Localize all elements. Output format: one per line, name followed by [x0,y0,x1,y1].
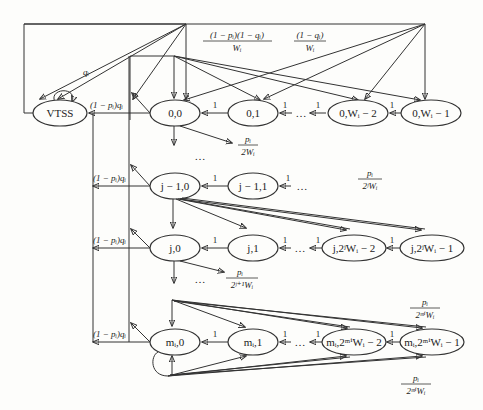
svg-text:2ᵐⁱWᵢ: 2ᵐⁱWᵢ [416,310,436,320]
node-m-w-1: mᵢ,2ᵐⁱWᵢ − 1 [404,336,460,348]
svg-text:1: 1 [390,100,395,110]
stage-m-bottom-edges: pᵢ 2ᵐⁱWᵢ [153,352,431,396]
svg-text:pᵢ: pᵢ [236,267,244,277]
svg-text:Wᵢ: Wᵢ [306,43,315,53]
svg-text:1: 1 [213,100,218,110]
svg-text:1: 1 [316,235,321,245]
svg-text:2ʲWᵢ: 2ʲWᵢ [363,181,378,191]
node-vtss: qᵢ VTSS [33,67,90,126]
node-j-w-2: j,2ʲWᵢ − 2 [332,242,375,254]
node-j-1-0: j − 1,0 [160,180,190,192]
node-j-1-1: j − 1,1 [238,180,268,192]
node-m-w-2: mᵢ,2ᵐⁱWᵢ − 2 [326,336,382,348]
svg-text:1: 1 [213,329,218,339]
top-hub-edges [40,24,186,99]
svg-text:2Wᵢ: 2Wᵢ [241,147,255,157]
svg-text:…: … [195,273,206,285]
svg-text:1: 1 [390,235,395,245]
top-fraction-labels: (1 − pᵢ)(1 − qᵢ) Wᵢ (1 − qᵢ) Wᵢ [203,30,326,53]
svg-text:pᵢ: pᵢ [421,297,429,307]
svg-text:…: … [295,242,306,254]
svg-text:pᵢ: pᵢ [412,373,420,383]
node-0-w-2: 0,Wᵢ − 2 [339,107,377,119]
node-m-0: mᵢ,0 [166,336,185,348]
stage-j-row: (1 − pᵢ)qᵢ j,0 1 j,1 1 … 1 j,2ʲWᵢ − 2 1 … [93,229,464,261]
svg-text:1: 1 [286,173,291,183]
node-j-w-1: j,2ʲWᵢ − 1 [410,242,453,254]
svg-text:pᵢ: pᵢ [244,134,252,144]
svg-text:…: … [296,107,307,119]
svg-text:(1 − pᵢ)qᵢ: (1 − pᵢ)qᵢ [93,173,126,183]
stage-m-top-edges: pᵢ 2ᵐⁱWᵢ [172,297,440,328]
stage0-to-vtss-label: (1 − pᵢ)qᵢ [90,100,123,110]
svg-text:1: 1 [283,329,288,339]
svg-text:Wᵢ: Wᵢ [233,43,242,53]
stage-j-down-edges: … pᵢ 2ʲ⁺¹Wᵢ [174,261,258,290]
node-0-1: 0,1 [246,107,260,119]
vtss-label: VTSS [47,107,74,119]
svg-text:(1 − qᵢ): (1 − qᵢ) [297,30,324,40]
stage-m-row: (1 − pᵢ)qᵢ mᵢ,0 1 mᵢ,1 1 … 1 mᵢ,2ᵐⁱWᵢ − … [93,323,464,355]
node-j-0: j,0 [168,242,181,254]
node-m-1: mᵢ,1 [244,336,263,348]
svg-text:…: … [295,336,306,348]
svg-text:(1 − pᵢ)qᵢ: (1 − pᵢ)qᵢ [93,329,126,339]
svg-text:1: 1 [283,235,288,245]
stage-j-minus-1-row: (1 − pᵢ)qᵢ j − 1,0 1 j − 1,1 1 … [93,165,308,199]
svg-text:2ᵐⁱWᵢ: 2ᵐⁱWᵢ [407,386,427,396]
node-0-w-1: 0,Wᵢ − 1 [412,107,450,119]
svg-text:(1 − pᵢ)(1 − qᵢ): (1 − pᵢ)(1 − qᵢ) [210,30,264,40]
svg-text:1: 1 [213,235,218,245]
node-j-1: j,1 [246,242,258,254]
svg-text:1: 1 [390,329,395,339]
stage-j-minus-1-down-edges: pᵢ 2ʲWᵢ [173,168,425,230]
svg-text:pᵢ: pᵢ [366,168,374,178]
svg-text:1: 1 [213,173,218,183]
svg-text:2ʲ⁺¹Wᵢ: 2ʲ⁺¹Wᵢ [231,280,254,290]
stage-0-row: (1 − pᵢ)qᵢ 0,0 1 0,1 1 … 1 0,Wᵢ − 2 1 0,… [89,93,461,126]
svg-text:…: … [297,180,308,192]
svg-text:(1 − pᵢ)qᵢ: (1 − pᵢ)qᵢ [93,235,126,245]
vtss-self-loop-label: qᵢ [83,67,90,77]
svg-text:1: 1 [316,100,321,110]
node-0-0: 0,0 [168,107,182,119]
svg-text:…: … [195,150,206,162]
stage-0-down-edges: … pᵢ 2Wᵢ [174,126,258,162]
left-trunk-lines [93,56,129,342]
svg-text:1: 1 [283,100,288,110]
markov-chain-diagram: qᵢ VTSS (1 − pᵢ)qᵢ 0,0 1 0,1 1 … 1 0,Wᵢ … [0,0,483,410]
svg-text:1: 1 [316,329,321,339]
